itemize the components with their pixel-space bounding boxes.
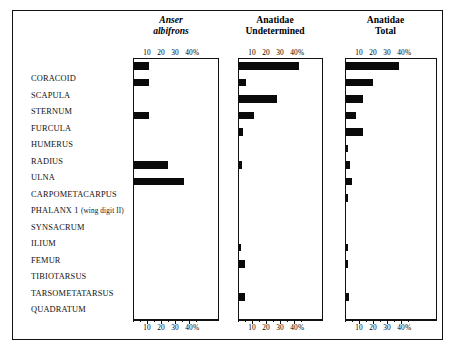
bar (239, 293, 245, 301)
bar-row (346, 142, 438, 159)
axis-tick-label: 20 (262, 49, 269, 57)
bar (239, 95, 277, 103)
bar-row (134, 142, 220, 159)
plot-area (238, 59, 323, 320)
bar (239, 128, 243, 136)
axis-tick (245, 320, 246, 323)
bar-row (346, 241, 438, 258)
axis-tick-label: 20 (369, 49, 376, 57)
bar (346, 244, 348, 252)
bar-group (346, 59, 438, 307)
bar-row (239, 92, 324, 109)
bar (239, 62, 299, 70)
axis-tick-label: 30 (276, 324, 283, 332)
panel-title-line2: Total (375, 25, 396, 36)
bar-row (239, 158, 324, 175)
bar (239, 260, 245, 268)
axis-tick (133, 320, 134, 323)
bar (134, 178, 184, 186)
axis-tick (273, 320, 274, 323)
plot-area (133, 59, 219, 320)
panel-title-line1: Anser (159, 14, 182, 25)
bar-row (239, 175, 324, 192)
category-label: SCAPULA (31, 88, 131, 105)
plot-area (345, 59, 437, 320)
bar (134, 62, 149, 70)
bar-row (346, 274, 438, 291)
axis-tick-label: % (193, 324, 199, 332)
panel-title-line1: Anatidae (367, 14, 404, 25)
panel-title-line2: albifrons (153, 25, 189, 36)
category-label: ILIUM (31, 236, 131, 253)
axis-tick-label: 40 (290, 49, 297, 57)
bar (134, 112, 149, 120)
category-label: CORACOID (31, 71, 131, 88)
bar-row (239, 290, 324, 307)
axis-bottom: 10203040% (345, 320, 437, 332)
bar-row (134, 224, 220, 241)
bar-row (346, 257, 438, 274)
bar (346, 79, 373, 87)
category-label: FEMUR (31, 253, 131, 270)
axis-tick-label: 30 (383, 49, 390, 57)
axis-tick-label: 20 (157, 324, 164, 332)
axis-bottom: 10203040% (133, 320, 219, 332)
axis-tick (238, 320, 239, 323)
figure-frame: CORACOIDSCAPULASTERNUMFURCULAHUMERUSRADI… (12, 10, 443, 340)
bar (239, 161, 242, 169)
bar-row (239, 241, 324, 258)
category-label: RADIUS (31, 154, 131, 171)
bar-row (346, 92, 438, 109)
axis-tick-label: 40 (185, 324, 192, 332)
axis-tick (259, 320, 260, 323)
axis-tick-label: % (298, 324, 304, 332)
bar-row (346, 208, 438, 225)
axis-tick-label: 40 (185, 49, 192, 57)
bar-row (134, 59, 220, 76)
bar (346, 112, 356, 120)
axis-tick-label: 40 (397, 49, 404, 57)
bar-row (346, 191, 438, 208)
bar-row (134, 125, 220, 142)
axis-tick-label: 10 (355, 49, 362, 57)
bar-row (134, 208, 220, 225)
bar-row (134, 158, 220, 175)
axis-tick-label: % (405, 49, 411, 57)
category-label: QUADRATUM (31, 302, 131, 319)
bar-row (346, 158, 438, 175)
bar-row (134, 92, 220, 109)
axis-tick-label: 30 (383, 324, 390, 332)
axis-tick-label: % (298, 49, 304, 57)
axis-tick (182, 320, 183, 323)
bar-row (346, 76, 438, 93)
axis-tick (352, 320, 353, 323)
bar-row (346, 125, 438, 142)
bar-row (134, 76, 220, 93)
axis-line (133, 320, 219, 321)
axis-tick (287, 320, 288, 323)
bar-row (134, 241, 220, 258)
axis-tick-label: 10 (143, 324, 150, 332)
bar-row (239, 191, 324, 208)
bar-row (134, 191, 220, 208)
bar-row (346, 109, 438, 126)
axis-tick-label: 30 (276, 49, 283, 57)
bar-row (134, 290, 220, 307)
bar-row (239, 76, 324, 93)
bar-group (134, 59, 220, 307)
panel-title: Anser albifrons (123, 14, 219, 36)
bar-row (134, 257, 220, 274)
bar-group (239, 59, 324, 307)
category-label: CARPOMETACARPUS (31, 187, 131, 204)
bar-row (239, 59, 324, 76)
panel-title: Anatidae Undetermined (227, 14, 323, 36)
bar (346, 128, 363, 136)
axis-tick (394, 320, 395, 323)
bar-row (239, 208, 324, 225)
panel-title-line1: Anatidae (256, 14, 293, 25)
axis-tick (366, 320, 367, 323)
axis-tick (380, 320, 381, 323)
category-label: SYNSACRUM (31, 220, 131, 237)
bar (346, 293, 349, 301)
category-label: STERNUM (31, 104, 131, 121)
